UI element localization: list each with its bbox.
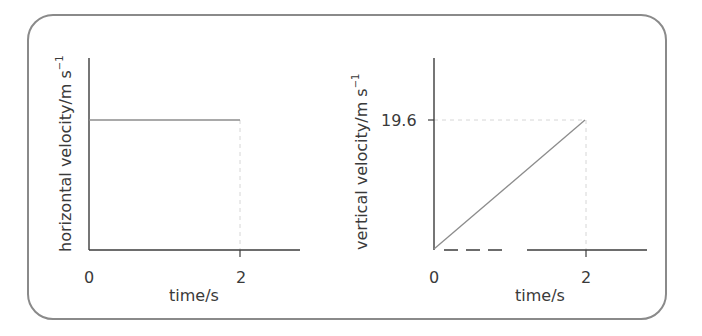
left-tick-label-0: 0 [84,268,94,287]
left-tick-label-2: 2 [236,268,246,287]
left-x-axis-label: time/s [169,286,219,305]
right-ytick-label: 19.6 [381,111,417,130]
plots: 0 2 time/s horizontal velocity/m s−1 19.… [0,0,702,336]
right-tick-label-2: 2 [581,268,591,287]
vertical-velocity-line [434,120,585,249]
right-tick-label-0: 0 [429,268,439,287]
horizontal-velocity-chart: 0 2 time/s horizontal velocity/m s−1 [54,55,300,305]
right-y-axis-label: vertical velocity/m s−1 [350,74,371,250]
left-y-axis-label: horizontal velocity/m s−1 [54,55,75,252]
right-x-axis-label: time/s [515,286,565,305]
vertical-velocity-chart: 19.6 0 2 time/s vertical velocity/m s−1 [350,58,647,305]
